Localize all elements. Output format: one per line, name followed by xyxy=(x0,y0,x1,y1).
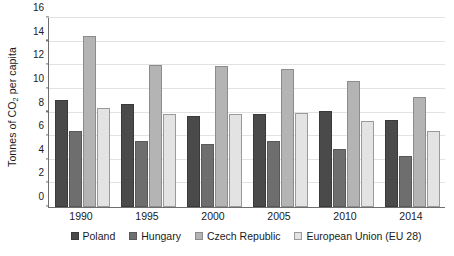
bar-group xyxy=(247,18,313,207)
bar[interactable] xyxy=(333,149,346,207)
x-axis-tick-label: 2000 xyxy=(180,210,246,222)
x-axis-tick-label: 2010 xyxy=(312,210,378,222)
bar[interactable] xyxy=(69,131,82,207)
plot-area: 0246810121416 xyxy=(48,18,445,208)
bar[interactable] xyxy=(55,100,68,207)
y-axis-title-subscript: 2 xyxy=(11,97,20,101)
bar-groups xyxy=(49,18,445,207)
bar[interactable] xyxy=(385,120,398,207)
bar-group xyxy=(379,18,445,207)
legend-swatch-icon xyxy=(129,232,137,240)
bar-group xyxy=(115,18,181,207)
legend-item[interactable]: Hungary xyxy=(129,230,181,242)
bar[interactable] xyxy=(295,113,308,208)
legend-swatch-icon xyxy=(71,232,79,240)
legend-label: Czech Republic xyxy=(207,230,281,242)
bar[interactable] xyxy=(149,65,162,207)
bar[interactable] xyxy=(347,81,360,207)
bar[interactable] xyxy=(135,141,148,207)
y-axis-tick-label: 6 xyxy=(38,120,44,131)
y-axis-title-prefix: Tonnes of CO xyxy=(6,102,18,167)
x-axis-tick-label: 1990 xyxy=(48,210,114,222)
bar[interactable] xyxy=(187,116,200,207)
legend-label: Poland xyxy=(83,230,116,242)
bar-group xyxy=(181,18,247,207)
bar[interactable] xyxy=(97,108,110,207)
y-axis-tick-label: 4 xyxy=(38,143,44,154)
y-axis-tick-label: 12 xyxy=(33,49,44,60)
legend-label: European Union (EU 28) xyxy=(306,230,421,242)
legend-item[interactable]: Poland xyxy=(71,230,116,242)
bar[interactable] xyxy=(361,121,374,207)
bar[interactable] xyxy=(281,69,294,207)
bar[interactable] xyxy=(253,114,266,207)
y-axis-tick-label: 2 xyxy=(38,167,44,178)
legend-item[interactable]: European Union (EU 28) xyxy=(294,230,421,242)
bar[interactable] xyxy=(399,156,412,207)
y-axis-tick-label: 16 xyxy=(33,2,44,13)
y-axis-tick-label: 0 xyxy=(38,191,44,202)
x-axis-tick-label: 2014 xyxy=(378,210,444,222)
bar-group xyxy=(49,18,115,207)
bar-group xyxy=(313,18,379,207)
bar[interactable] xyxy=(427,131,440,207)
y-axis-title-suffix: per capita xyxy=(6,47,18,97)
bar[interactable] xyxy=(267,141,280,207)
bar[interactable] xyxy=(83,36,96,207)
bar[interactable] xyxy=(413,97,426,207)
legend-label: Hungary xyxy=(141,230,181,242)
bar[interactable] xyxy=(229,114,242,207)
x-axis-tick-labels: 199019952000200520102014 xyxy=(48,210,444,222)
y-axis-tick-label: 10 xyxy=(33,72,44,83)
legend-item[interactable]: Czech Republic xyxy=(195,230,281,242)
bar[interactable] xyxy=(215,66,228,207)
x-axis-tick-label: 2005 xyxy=(246,210,312,222)
legend-swatch-icon xyxy=(195,232,203,240)
y-axis-title: Tonnes of CO2 per capita xyxy=(6,2,22,212)
bar[interactable] xyxy=(163,114,176,207)
legend-swatch-icon xyxy=(294,232,302,240)
bar[interactable] xyxy=(319,111,332,207)
y-axis-tick-label: 8 xyxy=(38,96,44,107)
y-axis-tick-label: 14 xyxy=(33,25,44,36)
bar-chart: Tonnes of CO2 per capita 0246810121416 1… xyxy=(0,0,454,256)
x-axis-tick-label: 1995 xyxy=(114,210,180,222)
bar[interactable] xyxy=(201,144,214,207)
legend: PolandHungaryCzech RepublicEuropean Unio… xyxy=(48,230,444,242)
bar[interactable] xyxy=(121,104,134,207)
